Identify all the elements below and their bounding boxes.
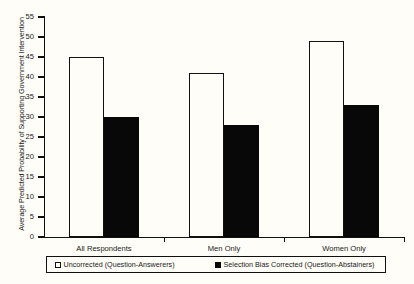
y-axis-tick-label: 15	[0, 173, 34, 181]
legend-entry: Uncorrected (Question-Answerers)	[55, 261, 175, 269]
bar	[344, 105, 379, 237]
y-axis-tick-label: 50	[0, 33, 34, 41]
y-axis-tick-label: 20	[0, 153, 34, 161]
open-square-icon	[55, 262, 61, 268]
chart-legend: Uncorrected (Question-Answerers)Selectio…	[46, 256, 386, 273]
bar-chart: Average Predicted Probability of Support…	[0, 0, 414, 284]
filled-square-icon	[215, 262, 221, 268]
x-axis-tick	[284, 237, 285, 242]
y-axis-tick-label: 35	[0, 93, 34, 101]
legend-label: Uncorrected (Question-Answerers)	[64, 261, 175, 269]
x-axis-category-label: Men Only	[164, 244, 284, 253]
bar	[104, 117, 139, 237]
legend-entry: Selection Bias Corrected (Question-Absta…	[215, 261, 375, 269]
y-axis-tick-label: 45	[0, 53, 34, 61]
bar	[224, 125, 259, 237]
x-axis-tick	[404, 237, 405, 242]
y-axis-tick-label: 30	[0, 113, 34, 121]
y-axis-tick-label: 40	[0, 73, 34, 81]
plot-area	[44, 17, 404, 237]
x-axis-category-label: Women Only	[284, 244, 404, 253]
y-axis-tick-label: 5	[0, 213, 34, 221]
y-axis-tick-label: 55	[0, 13, 34, 21]
bar	[189, 73, 224, 237]
bar	[69, 57, 104, 237]
y-axis-title: Average Predicted Probability of Support…	[16, 8, 28, 240]
x-axis-tick	[164, 237, 165, 242]
x-axis-category-label: All Respondents	[44, 244, 164, 253]
y-axis-tick-label: 25	[0, 133, 34, 141]
y-axis-tick-label: 10	[0, 193, 34, 201]
y-axis-tick-label: 0	[0, 233, 34, 241]
bar	[309, 41, 344, 237]
legend-label: Selection Bias Corrected (Question-Absta…	[224, 261, 375, 269]
